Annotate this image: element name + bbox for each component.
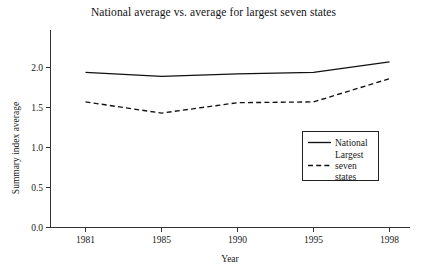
x-axis-ticks bbox=[86, 228, 390, 233]
x-axis-title: Year bbox=[221, 254, 239, 264]
line-chart-plot: 2.0 1.5 1.0 0.5 0.0 Summary index averag… bbox=[0, 0, 427, 270]
x-tick-label-1981: 1981 bbox=[76, 235, 95, 245]
y-tick-label-2-0: 2.0 bbox=[31, 63, 43, 73]
chart-legend: National Largest seven states bbox=[303, 132, 379, 183]
y-tick-label-0-5: 0.5 bbox=[31, 183, 43, 193]
series-line-national bbox=[86, 62, 390, 76]
x-tick-label-1995: 1995 bbox=[304, 235, 323, 245]
series-line-largest-seven-states bbox=[86, 79, 390, 113]
legend-label-largest-line2: seven bbox=[335, 161, 357, 171]
chart-figure: National average vs. average for largest… bbox=[0, 0, 427, 270]
x-axis-tick-labels: 1981 1985 1990 1995 1998 bbox=[76, 235, 399, 245]
x-tick-label-1998: 1998 bbox=[380, 235, 399, 245]
y-tick-label-1-0: 1.0 bbox=[31, 143, 43, 153]
y-axis-ticks bbox=[46, 68, 51, 228]
x-tick-label-1985: 1985 bbox=[152, 235, 171, 245]
y-axis-title: Summary index average bbox=[11, 102, 21, 194]
y-axis-tick-labels: 2.0 1.5 1.0 0.5 0.0 bbox=[31, 63, 43, 233]
legend-label-largest-line1: Largest bbox=[335, 150, 364, 160]
legend-label-largest-line3: states bbox=[335, 172, 356, 182]
y-tick-label-1-5: 1.5 bbox=[31, 103, 43, 113]
legend-label-national: National bbox=[335, 138, 368, 148]
x-tick-label-1990: 1990 bbox=[228, 235, 247, 245]
y-tick-label-0-0: 0.0 bbox=[31, 223, 43, 233]
